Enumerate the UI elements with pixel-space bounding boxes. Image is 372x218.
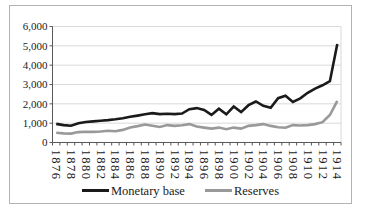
legend-item-monetary-base: Monetary base: [82, 185, 185, 198]
x-tick-label: 1878: [64, 150, 78, 181]
chart-legend: Monetary base Reserves: [10, 185, 351, 198]
x-tick-label: 1908: [286, 150, 300, 181]
y-tick-label: 6,000: [23, 20, 48, 32]
x-tick-label: 1880: [79, 150, 93, 181]
x-tick-label: 1912: [316, 150, 330, 181]
x-tick-label: 1902: [242, 150, 256, 181]
x-tick-label: 1876: [49, 150, 63, 181]
legend-line-swatch-monetary-base: [82, 189, 109, 192]
x-tick-label: 1884: [108, 150, 122, 181]
x-tick-label: 1890: [153, 150, 167, 181]
x-tick-label: 1896: [197, 150, 211, 181]
x-tick-label: 1898: [212, 150, 226, 181]
x-tick-label: 1900: [227, 150, 241, 181]
x-tick-label: 1906: [271, 150, 285, 181]
y-tick-label: 4,000: [23, 59, 48, 71]
figure: 01,0002,0003,0004,0005,0006,000187618781…: [9, 5, 352, 204]
x-tick-label: 1904: [256, 150, 270, 181]
x-tick-label: 1886: [123, 150, 137, 181]
x-tick-label: 1894: [182, 150, 196, 181]
legend-label-reserves: Reserves: [234, 185, 279, 198]
y-tick-label: 5,000: [23, 40, 48, 52]
x-tick-label: 1882: [94, 150, 108, 181]
x-tick-label: 1910: [301, 150, 315, 181]
legend-item-reserves: Reserves: [205, 185, 279, 198]
y-tick-label: 2,000: [23, 98, 48, 110]
x-tick-label: 1888: [138, 150, 152, 181]
legend-label-monetary-base: Monetary base: [111, 185, 185, 198]
y-tick-label: 0: [42, 136, 48, 148]
series-line-reserves: [56, 101, 337, 134]
y-tick-label: 1,000: [23, 117, 48, 129]
chart-plot-area: 01,0002,0003,0004,0005,0006,000187618781…: [10, 6, 351, 203]
x-tick-label: 1914: [330, 150, 344, 181]
x-tick-label: 1892: [168, 150, 182, 181]
legend-line-swatch-reserves: [205, 189, 232, 192]
y-tick-label: 3,000: [23, 78, 48, 90]
